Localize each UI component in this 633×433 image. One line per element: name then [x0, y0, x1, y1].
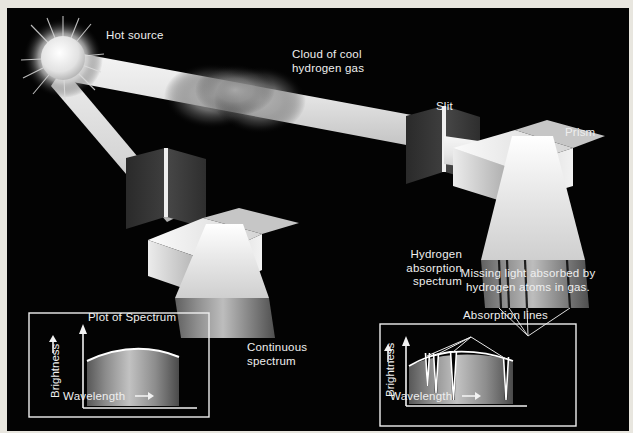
axis-label-wavelength-left: Wavelength — [63, 390, 125, 404]
label-slit: Slit — [436, 100, 453, 114]
plot-title-absorption-lines: Absorption lines — [463, 309, 548, 323]
axis-label-brightness-left: Brightness — [49, 344, 61, 398]
gas-cloud — [164, 63, 306, 134]
figure-page: Hot source Cloud of cool hydrogen gas Sl… — [0, 0, 633, 433]
label-missing-light: Missing light absorbed by hydrogen atoms… — [443, 267, 613, 294]
diagram-canvas: Hot source Cloud of cool hydrogen gas Sl… — [7, 8, 629, 431]
label-hot-source: Hot source — [106, 29, 164, 43]
absorption-spectrum-plot — [380, 324, 576, 426]
label-cloud-of-cool-hydrogen-gas: Cloud of cool hydrogen gas — [292, 48, 364, 75]
hot-source — [21, 16, 104, 100]
label-prism: Prism — [565, 126, 595, 140]
axis-label-brightness-right: Brightness — [384, 343, 396, 397]
label-continuous-spectrum: Continuous spectrum — [247, 341, 307, 368]
slit-plate-left — [126, 148, 206, 229]
axis-label-wavelength-right: Wavelength — [390, 390, 452, 404]
plot-title-plot-of-spectrum: Plot of Spectrum — [88, 311, 176, 325]
